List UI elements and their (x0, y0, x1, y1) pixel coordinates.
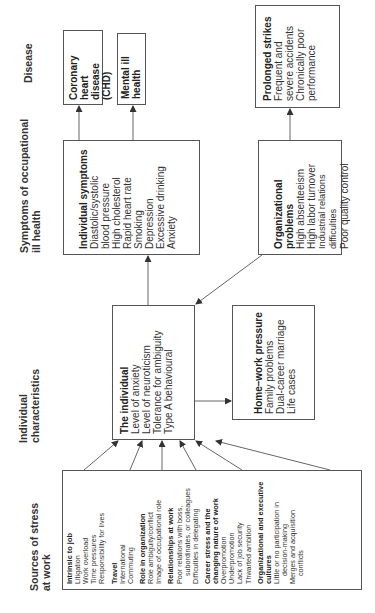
source-group-intrinsic: Intrinsic to job Litigation Work overloa… (66, 476, 107, 584)
home-work-title: Home–work pressure (253, 311, 264, 414)
source-group-travel: Travel International Commuting (111, 476, 135, 584)
individual-symptoms-box: Individual symptoms Diastolic/systolic b… (63, 140, 200, 255)
home-work-pressure-box: Home–work pressure Family problems Dual-… (232, 305, 315, 420)
symptom-item: Anxiety (166, 146, 177, 249)
prolonged-item: performance (306, 12, 317, 101)
symptom-item: Depression (144, 146, 155, 249)
group-item: conflicts (297, 476, 305, 584)
individual-item: Type A behavioural (163, 311, 174, 434)
individual-item: Tolerance for ambiguity (152, 311, 163, 434)
symptom-item: Rapid heart rate (122, 146, 133, 249)
individual-item: Level of anxiety (130, 311, 141, 434)
group-title: Career stress and the changing nature of… (204, 476, 220, 584)
source-group-career: Career stress and the changing nature of… (204, 476, 253, 584)
chd-box: Coronary heart disease (CHD) (63, 30, 103, 105)
individual-item: Level of neuroticism (141, 311, 152, 434)
symptom-item: Diastolic/systolic (89, 146, 100, 249)
sources-of-stress-box: Intrinsic to job Litigation Work overloa… (62, 470, 362, 590)
home-work-item: Family problems (264, 311, 275, 414)
group-item: Image of occupational role (155, 476, 163, 584)
organizational-problems-box: Organizational problems High absenteeism… (258, 140, 342, 255)
chd-label-line1: Coronary heart (68, 35, 90, 100)
org-problem-item: High absenteeism (295, 146, 306, 249)
home-work-item: Dual-career marriage (275, 311, 286, 414)
org-problems-title-line2: problems (284, 146, 295, 249)
individual-box: The individual Level of anxiety Level of… (112, 305, 195, 440)
individual-title: The individual (119, 311, 130, 434)
group-item: Responsibility for lives (98, 476, 106, 584)
source-group-cultures: Organizational and executive cultures Li… (257, 476, 306, 584)
group-title: Organizational and executive cultures (257, 476, 273, 584)
prolonged-item: Frequent and (273, 12, 284, 101)
symptom-item: blood pressure (100, 146, 111, 249)
source-group-role: Role in organization Role ambiguity/conf… (139, 476, 163, 584)
mental-ill-health-box: Mental ill health (117, 33, 146, 105)
group-item: Commuting (127, 476, 135, 584)
prolonged-title: Prolonged strikes (262, 12, 273, 101)
home-work-item: Life cases (286, 311, 297, 414)
prolonged-strikes-box: Prolonged strikes Frequent and severe ac… (255, 5, 340, 108)
symptoms-title: Individual symptoms (78, 146, 89, 249)
org-problem-item: Poor quality control (339, 146, 350, 249)
source-group-relationships: Relationships at work Poor relations wit… (167, 476, 199, 584)
group-item: Thwarted ambition (245, 476, 253, 584)
group-item: Difficulties in delegating (192, 476, 200, 584)
mental-label-line1: Mental ill (120, 39, 131, 99)
prolonged-item: Chronically poor (295, 12, 306, 101)
chd-label-line2: disease (CHD) (90, 35, 112, 100)
mental-label-line2: health (131, 39, 142, 99)
org-problem-item: High labor turnover (306, 146, 317, 249)
symptom-item: Excessive drinking (155, 146, 166, 249)
symptom-item: Smoking (133, 146, 144, 249)
diagram-canvas: Sources of stress at work Individual cha… (0, 0, 375, 613)
prolonged-item: severe accidents (284, 12, 295, 101)
org-problem-item: Industrial relations difficulties (317, 146, 339, 249)
symptom-item: High cholesterol (111, 146, 122, 249)
org-problems-title: Organizational (273, 146, 284, 249)
